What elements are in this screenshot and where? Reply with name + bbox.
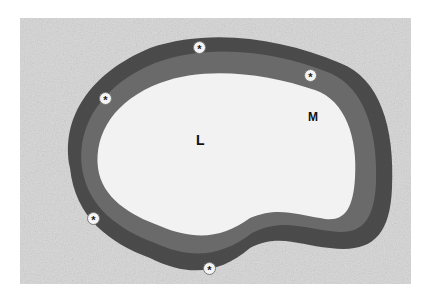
vessel-section-illustration [20, 18, 411, 284]
asterisk-marker-bottom-left: * [87, 212, 100, 225]
lumen-label: L [196, 132, 205, 148]
asterisk-marker-top-right: * [304, 69, 317, 82]
asterisk-marker-top: * [193, 41, 206, 54]
media-label: M [308, 110, 318, 124]
asterisk-marker-bottom: * [203, 262, 216, 275]
asterisk-marker-left: * [99, 92, 112, 105]
micrograph: L M * * * * * [20, 18, 411, 284]
